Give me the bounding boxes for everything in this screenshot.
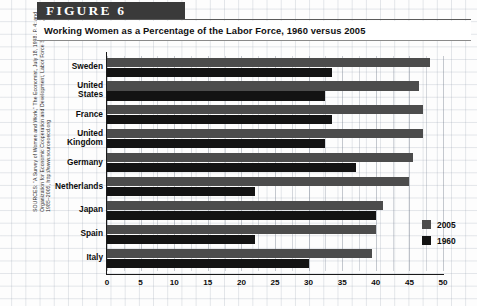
category-label-united-states: UnitedStates: [3, 81, 103, 100]
bar-sweden-1960: [107, 68, 332, 77]
x-tick-45: 45: [396, 278, 422, 287]
x-tick-40: 40: [363, 278, 389, 287]
chart-title: Working Women as a Percentage of the Lab…: [37, 21, 471, 41]
chart-plot-frame: SwedenUnitedStatesFranceUnitedKingdomGer…: [37, 48, 471, 295]
x-tick-50: 50: [430, 278, 456, 287]
bar-germany-1960: [107, 163, 356, 172]
bar-japan-2005: [107, 201, 383, 210]
legend-label-2005: 2005: [437, 220, 456, 230]
bar-group-row: UnitedKingdom: [107, 128, 443, 152]
bar-group-row: Sweden: [107, 56, 443, 80]
category-label-germany: Germany: [3, 158, 103, 168]
bar-sweden-2005: [107, 58, 430, 67]
x-tick-15: 15: [195, 278, 221, 287]
bar-group-row: Japan: [107, 199, 443, 223]
bar-germany-2005: [107, 153, 413, 162]
x-tick-20: 20: [228, 278, 254, 287]
bar-group-row: Italy: [107, 247, 443, 271]
category-label-japan: Japan: [3, 205, 103, 215]
category-label-netherlands: Netherlands: [3, 182, 103, 192]
legend-swatch-2005: [422, 220, 431, 229]
bar-france-2005: [107, 105, 423, 114]
bar-group-row: Germany: [107, 152, 443, 176]
bar-spain-1960: [107, 235, 255, 244]
bar-spain-2005: [107, 225, 376, 234]
x-tick-35: 35: [329, 278, 355, 287]
x-tick-10: 10: [161, 278, 187, 287]
chart-legend: 20051960: [422, 218, 477, 250]
bar-united-kingdom-2005: [107, 129, 423, 138]
bar-italy-2005: [107, 249, 372, 258]
bar-japan-1960: [107, 211, 376, 220]
bar-italy-1960: [107, 259, 309, 268]
bar-group-row: France: [107, 104, 443, 128]
bar-france-1960: [107, 115, 332, 124]
category-label-sweden: Sweden: [3, 62, 103, 72]
x-tick-0: 0: [94, 278, 120, 287]
x-axis-line: [106, 274, 444, 275]
category-label-france: France: [3, 110, 103, 120]
legend-item-2005[interactable]: 2005: [422, 218, 477, 231]
bar-united-states-1960: [107, 91, 325, 100]
bar-netherlands-2005: [107, 177, 409, 186]
category-label-united-kingdom: UnitedKingdom: [3, 129, 103, 148]
banner-rule: [37, 19, 471, 20]
bar-united-kingdom-1960: [107, 139, 325, 148]
x-tick-5: 5: [128, 278, 154, 287]
bar-group-row: Spain: [107, 223, 443, 247]
category-label-italy: Italy: [3, 253, 103, 263]
legend-swatch-1960: [422, 236, 431, 245]
legend-label-1960: 1960: [437, 236, 456, 246]
x-tick-30: 30: [296, 278, 322, 287]
bar-group-row: UnitedStates: [107, 80, 443, 104]
bar-united-states-2005: [107, 81, 419, 90]
bar-group-row: Netherlands: [107, 176, 443, 200]
figure-banner: FIGURE 6: [37, 2, 185, 19]
legend-item-1960[interactable]: 1960: [422, 234, 477, 247]
category-label-spain: Spain: [3, 229, 103, 239]
bar-netherlands-1960: [107, 187, 255, 196]
x-tick-25: 25: [262, 278, 288, 287]
plot-area: SwedenUnitedStatesFranceUnitedKingdomGer…: [107, 56, 443, 271]
